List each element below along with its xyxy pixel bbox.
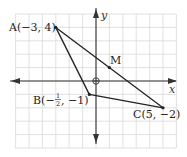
segment-ab bbox=[56, 27, 90, 94]
label-b: B(− bbox=[33, 94, 55, 107]
x-axis-label: x bbox=[169, 83, 176, 96]
label-b-frac-den: 2 bbox=[56, 100, 60, 108]
label-b-prefix: B(− bbox=[33, 94, 55, 107]
y-axis-label: y bbox=[100, 9, 108, 22]
label-b-suffix: , −1) bbox=[61, 94, 89, 107]
label-m: M bbox=[110, 54, 121, 67]
segment-bc bbox=[89, 94, 163, 107]
label-a: A(−3, 4) bbox=[8, 21, 56, 34]
label-b-frac-num: 1 bbox=[56, 92, 60, 100]
coordinate-diagram: x y A(−3, 4) B(− 1 2 , −1) C(5, −2) M bbox=[0, 0, 187, 157]
y-axis-up-arrow-icon bbox=[93, 9, 99, 18]
y-axis-down-arrow-icon bbox=[93, 134, 99, 143]
label-c: C(5, −2) bbox=[133, 108, 180, 121]
